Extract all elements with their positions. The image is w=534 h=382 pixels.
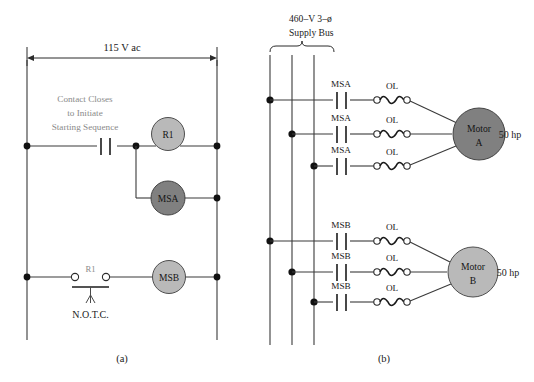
overload-label-b1: OL xyxy=(386,222,399,232)
overload-a3: OL xyxy=(374,147,410,170)
junction-dot-right-msb xyxy=(214,274,221,281)
motor-a-rating: 50 hp xyxy=(499,129,522,140)
contactor-label-a3: MSA xyxy=(331,145,351,155)
motor-a-label-line1: Motor xyxy=(467,123,492,134)
junction-dot-right-r1 xyxy=(214,143,221,150)
notc-switch-symbol xyxy=(71,273,109,303)
overload-a1: OL xyxy=(374,81,410,104)
notc-terminal-left xyxy=(71,273,78,280)
contactor-label-b1: MSB xyxy=(331,220,350,230)
supply-voltage-label: 115 V ac xyxy=(103,42,140,53)
rung-msa: MSA xyxy=(136,146,220,215)
overload-label-a1: OL xyxy=(386,81,399,91)
motor-b-phase-2: MSB OL xyxy=(288,251,447,281)
motor-b-phase-1: MSB OL xyxy=(266,220,452,263)
contactor-label-a2: MSA xyxy=(331,113,351,123)
overload-a2: OL xyxy=(374,115,410,138)
bus-label-line-1: 460–V 3–ø xyxy=(289,13,332,24)
overload-b2: OL xyxy=(374,253,410,276)
motor-b-symbol xyxy=(448,247,498,297)
motor-b-rating: 50 hp xyxy=(497,267,520,278)
notc-type-label: N.O.T.C. xyxy=(72,309,108,320)
junction-dot-left-msb xyxy=(24,274,31,281)
coil-msa-label: MSA xyxy=(158,194,179,204)
motor-a-branch-group: MSA OL MSA xyxy=(266,79,521,175)
notc-terminal-right xyxy=(102,273,109,280)
coil-r1-label: R1 xyxy=(162,130,173,140)
motor-a-symbol xyxy=(453,108,505,160)
schematic-figure: 115 V ac Contact Closes to Initiate Star… xyxy=(0,0,534,382)
motor-a-label-line2: A xyxy=(476,137,483,148)
rung-msb: R1 N.O.T.C. MSB xyxy=(24,261,221,321)
note-line-1: Contact Closes xyxy=(57,94,113,104)
note-line-2: to Initiate xyxy=(67,108,102,118)
motor-a-phase-1: MSA OL xyxy=(266,79,457,123)
control-circuit-group: 115 V ac Contact Closes to Initiate Star… xyxy=(24,42,221,365)
bus-brace xyxy=(270,41,334,52)
coil-msb-label: MSB xyxy=(159,273,179,283)
contactor-label-b2: MSB xyxy=(331,251,350,261)
contactor-label-a1: MSA xyxy=(331,79,351,89)
motor-a-phase-3: MSA OL xyxy=(310,145,456,175)
bus-label-line-2: Supply Bus xyxy=(289,27,334,38)
motor-a-phase-2: MSA OL xyxy=(288,113,452,143)
motor-b-label-line2: B xyxy=(470,275,476,286)
overload-b3: OL xyxy=(374,283,410,306)
power-circuit-group: 460–V 3–ø Supply Bus MSA xyxy=(266,13,521,365)
schematic-canvas: 115 V ac Contact Closes to Initiate Star… xyxy=(0,0,534,382)
motor-b-branch-group: MSB OL MSB xyxy=(266,220,519,311)
junction-dot-right-msa xyxy=(214,195,221,202)
motor-b-phase-3: MSB OL xyxy=(310,281,451,311)
caption-b: (b) xyxy=(378,353,391,365)
start-contact-symbol xyxy=(101,138,110,155)
overload-label-a3: OL xyxy=(386,147,399,157)
contactor-label-b3: MSB xyxy=(331,281,350,291)
junction-dot-left-r1 xyxy=(24,143,31,150)
overload-b1: OL xyxy=(374,222,410,245)
note-line-3: Starting Sequence xyxy=(52,122,119,132)
overload-label-a2: OL xyxy=(386,115,399,125)
motor-b-label-line1: Motor xyxy=(461,261,486,272)
overload-label-b3: OL xyxy=(386,283,399,293)
overload-label-b2: OL xyxy=(386,253,399,263)
caption-a: (a) xyxy=(116,353,128,365)
notc-contact-label: R1 xyxy=(85,264,95,274)
